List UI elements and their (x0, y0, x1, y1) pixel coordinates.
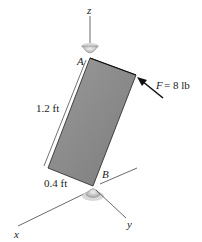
diagram-canvas: z A B x y 1.2 ft 0.4 ft F = 8 lb (0, 0, 202, 242)
dimension-length-label: 1.2 ft (36, 102, 59, 114)
force-symbol: F (155, 79, 163, 91)
dimension-width-label: 0.4 ft (44, 177, 67, 189)
z-axis-label: z (86, 4, 92, 16)
y-axis (96, 190, 126, 218)
point-b-label: B (102, 168, 109, 180)
point-a-label: A (76, 55, 84, 67)
force-value: = 8 lb (164, 79, 190, 91)
y-axis-label: y (126, 218, 132, 230)
bearing-a-icon (81, 43, 99, 53)
x-axis-label: x (13, 228, 19, 240)
